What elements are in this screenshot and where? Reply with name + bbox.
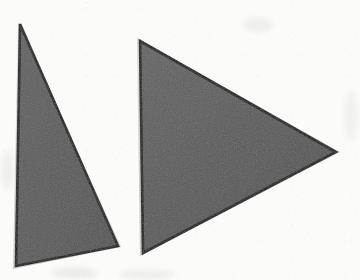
scanned-page: Two overlapping gray triangles Scanned b… (0, 0, 360, 280)
triangle-front-body (140, 41, 336, 253)
triangle-back (16, 24, 118, 266)
triangle-front (140, 41, 336, 253)
triangle-figure: Two overlapping gray triangles Scanned b… (0, 0, 360, 280)
triangle-back-body (16, 24, 118, 266)
